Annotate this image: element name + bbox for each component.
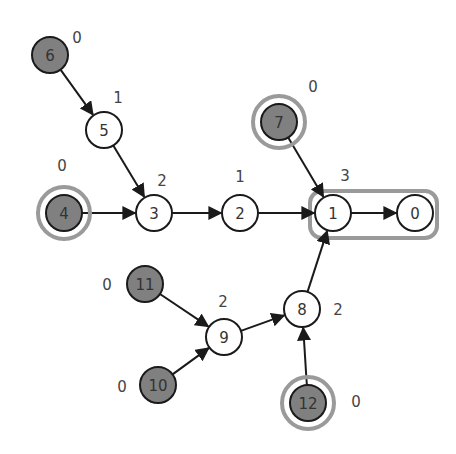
node-id-label: 6 [45,47,55,65]
node-weight-label: 2 [157,172,167,190]
node-10: 100 [117,367,176,403]
node-weight-label: 0 [351,393,361,411]
node-12: 120 [282,377,361,429]
edge-8-to-1 [308,231,328,292]
node-id-label: 0 [410,205,420,223]
node-1: 13 [315,167,351,231]
edge-9-to-8 [241,315,284,330]
node-weight-label: 1 [235,168,245,186]
node-3: 32 [136,172,172,231]
node-4: 40 [38,157,90,239]
node-id-label: 7 [274,114,284,132]
node-7: 70 [253,78,318,148]
graph-canvas: 0132132405160708292100110120 [0,0,456,454]
node-5: 51 [86,89,123,148]
node-9: 92 [206,293,242,355]
node-6: 60 [32,29,82,73]
node-weight-label: 0 [102,276,112,294]
node-id-label: 10 [148,377,167,395]
node-weight-label: 3 [340,167,350,185]
node-id-label: 9 [219,329,229,347]
node-weight-label: 0 [57,157,67,175]
edge-11-to-9 [160,294,208,326]
node-id-label: 1 [328,205,338,223]
node-layer: 0132132405160708292100110120 [32,29,433,429]
node-weight-label: 2 [333,301,343,319]
node-id-label: 4 [59,205,69,223]
edge-5-to-3 [113,145,144,196]
node-0: 0 [397,195,433,231]
node-id-label: 2 [235,205,245,223]
node-id-label: 3 [149,205,159,223]
graph-diagram: 0132132405160708292100110120 [0,0,456,454]
node-id-label: 8 [297,301,307,319]
edge-10-to-9 [173,348,209,374]
node-2: 21 [222,168,258,231]
node-id-label: 12 [298,395,317,413]
node-8: 82 [284,291,343,327]
node-weight-label: 1 [113,89,123,107]
node-weight-label: 0 [117,378,127,396]
node-weight-label: 2 [218,293,228,311]
node-11: 110 [102,266,163,302]
node-id-label: 11 [135,276,154,294]
node-weight-label: 0 [72,29,82,47]
edge-6-to-5 [61,70,93,115]
node-weight-label: 0 [308,78,318,96]
node-id-label: 5 [99,122,109,140]
edge-7-to-1 [288,137,323,196]
